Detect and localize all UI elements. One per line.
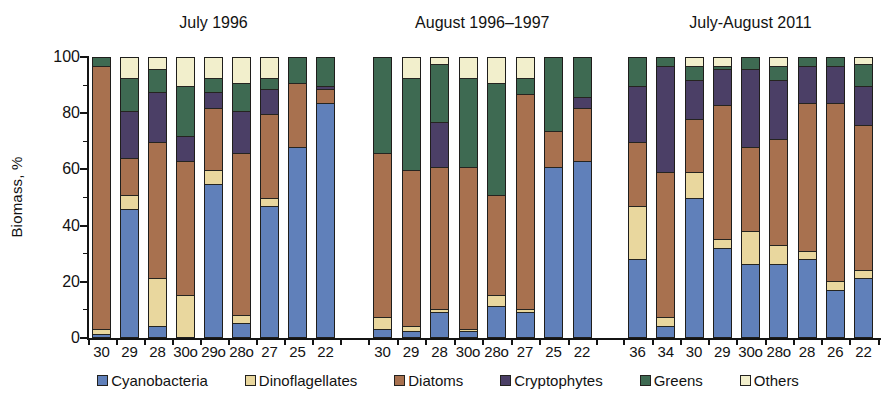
legend-item-cryptophytes: Cryptophytes — [500, 372, 602, 389]
bar-26 — [826, 57, 845, 338]
segment-diatoms — [827, 103, 844, 282]
segment-cryptophytes — [574, 97, 591, 108]
segment-diatoms — [261, 114, 278, 198]
segment-cryptophytes — [770, 80, 787, 139]
segment-greens — [177, 86, 194, 136]
x-axis-tick — [312, 340, 314, 345]
legend-label: Diatoms — [408, 372, 463, 389]
segment-dinoflagellates — [488, 295, 505, 306]
segment-diatoms — [149, 142, 166, 279]
segment-diatoms — [855, 125, 872, 270]
segment-cyanobacteria — [431, 312, 448, 337]
y-minor-tick — [83, 141, 87, 142]
x-axis-tick — [482, 340, 484, 345]
segment-greens — [545, 58, 562, 131]
segment-cyanobacteria — [714, 248, 731, 337]
y-axis-line — [87, 56, 89, 340]
x-category-label: 22 — [304, 343, 348, 360]
y-major-tick — [80, 56, 87, 58]
x-axis-tick — [454, 340, 456, 345]
bar-30o — [741, 57, 760, 338]
segment-dinoflagellates — [742, 231, 759, 264]
segment-greens — [121, 78, 138, 111]
segment-dinoflagellates — [205, 170, 222, 184]
bar-28 — [430, 57, 449, 338]
segment-diatoms — [374, 153, 391, 318]
bar-22 — [316, 57, 335, 338]
x-axis-tick — [144, 340, 146, 345]
segment-cyanobacteria — [93, 334, 110, 337]
segment-cyanobacteria — [289, 147, 306, 337]
bar-22 — [854, 57, 873, 338]
segment-greens — [770, 66, 787, 80]
segment-greens — [317, 58, 334, 86]
bar-28o — [232, 57, 251, 338]
legend: CyanobacteriaDinoflagellatesDiatomsCrypt… — [0, 372, 896, 389]
y-major-tick — [80, 337, 87, 339]
segment-cryptophytes — [149, 92, 166, 142]
y-tick-label: 0 — [38, 329, 80, 347]
segment-cyanobacteria — [121, 209, 138, 337]
segment-cyanobacteria — [770, 264, 787, 337]
y-major-tick — [80, 112, 87, 114]
bar-30 — [685, 57, 704, 338]
x-category-label: 22 — [560, 343, 604, 360]
y-tick-label: 80 — [38, 104, 80, 122]
segment-others — [517, 58, 534, 78]
bar-29 — [713, 57, 732, 338]
legend-swatch-icon — [245, 375, 256, 386]
x-axis-tick — [172, 340, 174, 345]
segment-greens — [855, 64, 872, 86]
segment-cyanobacteria — [517, 312, 534, 337]
y-tick-label: 60 — [38, 160, 80, 178]
segment-others — [233, 58, 250, 83]
segment-diatoms — [799, 103, 816, 251]
segment-cyanobacteria — [686, 198, 703, 338]
legend-swatch-icon — [394, 375, 405, 386]
x-axis-tick — [708, 340, 710, 345]
segment-cyanobacteria — [261, 206, 278, 337]
segment-cryptophytes — [233, 111, 250, 153]
segment-others — [149, 58, 166, 69]
segment-diatoms — [770, 139, 787, 245]
y-tick-label: 40 — [38, 217, 80, 235]
segment-greens — [149, 69, 166, 91]
y-axis-title: Biomass, % — [8, 122, 28, 272]
segment-others — [403, 58, 420, 78]
segment-others — [686, 58, 703, 66]
segment-cyanobacteria — [545, 167, 562, 337]
segment-cyanobacteria — [149, 326, 166, 337]
segment-diatoms — [686, 119, 703, 172]
x-axis-tick — [88, 340, 90, 345]
segment-others — [205, 58, 222, 78]
x-axis-tick — [849, 340, 851, 345]
legend-label: Cyanobacteria — [111, 372, 208, 389]
segment-others — [460, 58, 477, 78]
segment-dinoflagellates — [233, 315, 250, 323]
segment-greens — [460, 78, 477, 167]
segment-diatoms — [205, 108, 222, 169]
x-axis-tick — [652, 340, 654, 345]
bar-25 — [544, 57, 563, 338]
segment-diatoms — [742, 147, 759, 231]
segment-dinoflagellates — [177, 295, 194, 337]
segment-cryptophytes — [742, 69, 759, 147]
segment-cyanobacteria — [317, 103, 334, 337]
bar-27 — [516, 57, 535, 338]
segment-greens — [261, 78, 278, 89]
segment-dinoflagellates — [686, 172, 703, 197]
y-minor-tick — [83, 309, 87, 310]
segment-cyanobacteria — [488, 306, 505, 337]
panel-title: August 1996–1997 — [352, 14, 612, 32]
bar-29 — [402, 57, 421, 338]
legend-item-greens: Greens — [640, 372, 703, 389]
bar-25 — [288, 57, 307, 338]
segment-dinoflagellates — [799, 251, 816, 259]
x-axis-tick — [623, 340, 625, 345]
x-axis-tick — [340, 340, 342, 345]
segment-greens — [686, 66, 703, 80]
x-axis-tick — [256, 340, 258, 345]
segment-greens — [233, 83, 250, 111]
segment-greens — [488, 83, 505, 195]
segment-diatoms — [517, 94, 534, 309]
